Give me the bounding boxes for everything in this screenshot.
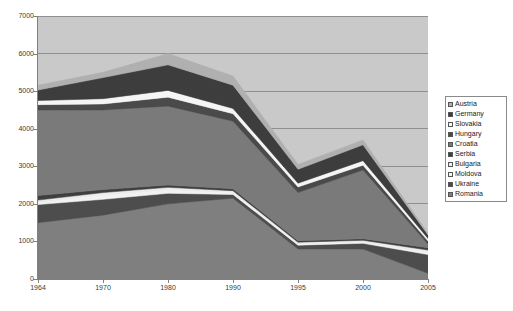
- legend-swatch-icon: [448, 112, 453, 117]
- legend-label: Moldova: [455, 170, 481, 178]
- legend-swatch-icon: [448, 132, 453, 137]
- chart-screenshot: 70006000500040003000200010000 1964197019…: [0, 0, 513, 311]
- y-axis: 70006000500040003000200010000: [0, 0, 34, 311]
- x-tick-mark: [428, 280, 429, 283]
- plot-area: [38, 16, 428, 279]
- y-tick-label: 3000: [2, 162, 34, 170]
- legend-label: Ukraine: [455, 180, 479, 188]
- legend-label: Croatia: [455, 140, 478, 148]
- x-tick-label: 1980: [148, 284, 188, 292]
- x-tick-label: 1995: [278, 284, 318, 292]
- legend-item-hungary[interactable]: Hungary: [448, 129, 505, 139]
- legend-label: Austria: [455, 100, 477, 108]
- x-axis: 1964197019801990199520002005: [0, 284, 513, 298]
- legend-label: Slovakia: [455, 120, 481, 128]
- legend-swatch-icon: [448, 142, 453, 147]
- legend-swatch-icon: [448, 162, 453, 167]
- y-tick-label: 7000: [2, 12, 34, 20]
- legend-label: Romania: [455, 190, 483, 198]
- x-tick-label: 2000: [343, 284, 383, 292]
- legend-label: Serbia: [455, 150, 475, 158]
- legend-swatch-icon: [448, 152, 453, 157]
- legend-item-austria[interactable]: Austria: [448, 99, 505, 109]
- x-tick-label: 2005: [408, 284, 448, 292]
- legend-label: Bulgaria: [455, 160, 481, 168]
- legend-swatch-icon: [448, 102, 453, 107]
- x-tick-mark: [298, 280, 299, 283]
- legend-swatch-icon: [448, 172, 453, 177]
- legend-item-bulgaria[interactable]: Bulgaria: [448, 159, 505, 169]
- x-tick-mark: [38, 280, 39, 283]
- chart-legend: AustriaGermanySlovakiaHungaryCroatiaSerb…: [445, 96, 507, 202]
- legend-item-ukraine[interactable]: Ukraine: [448, 179, 505, 189]
- x-tick-mark: [168, 280, 169, 283]
- y-tick-label: 1000: [2, 237, 34, 245]
- x-tick-mark: [103, 280, 104, 283]
- legend-label: Germany: [455, 110, 484, 118]
- y-axis-line: [37, 16, 38, 280]
- y-tick-label: 5000: [2, 87, 34, 95]
- y-tick-label: 2000: [2, 200, 34, 208]
- legend-label: Hungary: [455, 130, 481, 138]
- y-tick-label: 4000: [2, 125, 34, 133]
- legend-item-germany[interactable]: Germany: [448, 109, 505, 119]
- legend-item-romania[interactable]: Romania: [448, 189, 505, 199]
- legend-swatch-icon: [448, 122, 453, 127]
- legend-item-serbia[interactable]: Serbia: [448, 149, 505, 159]
- stacked-area-plot: [38, 16, 428, 279]
- x-tick-mark: [363, 280, 364, 283]
- x-tick-label: 1970: [83, 284, 123, 292]
- legend-item-croatia[interactable]: Croatia: [448, 139, 505, 149]
- legend-swatch-icon: [448, 192, 453, 197]
- x-tick-label: 1964: [18, 284, 58, 292]
- y-tick-label: 0: [2, 275, 34, 283]
- y-tick-label: 6000: [2, 50, 34, 58]
- legend-swatch-icon: [448, 182, 453, 187]
- x-tick-mark: [233, 280, 234, 283]
- legend-item-moldova[interactable]: Moldova: [448, 169, 505, 179]
- x-tick-label: 1990: [213, 284, 253, 292]
- legend-item-slovakia[interactable]: Slovakia: [448, 119, 505, 129]
